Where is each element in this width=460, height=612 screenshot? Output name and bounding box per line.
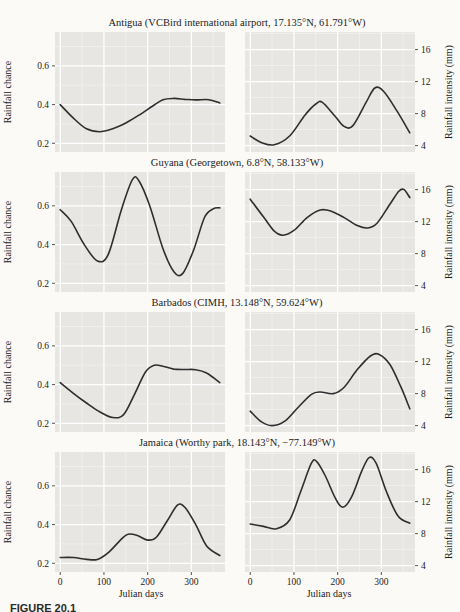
x-axis-labels: Julian days Julian days (0, 588, 460, 600)
panel-row-guyana: Guyana (Georgetown, 6.8°N, 58.133°W) 0.2… (0, 156, 460, 294)
panel-row-barbados: Barbados (CIMH, 13.148°N, 59.624°W) 0.20… (0, 296, 460, 434)
y-tick-label: 0.6 (37, 341, 49, 351)
y-tick-label: 8 (421, 389, 426, 399)
y-tick-label: 0.6 (37, 61, 49, 71)
y-axis-title: Rainfall intensity (mm) (443, 45, 455, 139)
y-axis-title: Rainfall chance (2, 60, 13, 123)
y-tick-label: 8 (421, 529, 426, 539)
y-tick-label: 0.2 (37, 559, 49, 569)
y-tick-label: 4 (421, 561, 426, 571)
guyana-rainfall-intensity-chart: 481216Rainfall intensity (mm) (243, 170, 460, 294)
jamaica-rainfall-chance-chart: 0.20.40.60100200300Rainfall chance (0, 450, 227, 588)
subplot-title-jamaica: Jamaica (Worthy park, 18.143°N, −77.149°… (0, 436, 460, 450)
y-tick-label: 12 (421, 217, 431, 227)
y-tick-label: 4 (421, 421, 426, 431)
chart-pair-antigua: 0.20.40.6Rainfall chance 481216Rainfall … (0, 30, 460, 154)
x-tick-label: 300 (184, 577, 199, 587)
barbados-rainfall-intensity-chart: 481216Rainfall intensity (mm) (243, 310, 460, 434)
y-axis-title: Rainfall chance (2, 480, 13, 543)
y-axis-title: Rainfall intensity (mm) (443, 465, 455, 559)
barbados-rainfall-chance-chart: 0.20.40.6Rainfall chance (0, 310, 227, 434)
y-tick-label: 16 (421, 465, 431, 475)
y-axis-title: Rainfall intensity (mm) (443, 325, 455, 419)
y-tick-label: 0.2 (37, 419, 49, 429)
y-tick-label: 0.4 (37, 100, 49, 110)
y-tick-label: 16 (421, 325, 431, 335)
y-tick-label: 4 (421, 281, 426, 291)
x-axis-label-right: Julian days (243, 588, 460, 600)
subplot-title-guyana: Guyana (Georgetown, 6.8°N, 58.133°W) (0, 156, 460, 170)
y-tick-label: 4 (421, 141, 426, 151)
chart-pair-guyana: 0.20.40.6Rainfall chance 481216Rainfall … (0, 170, 460, 294)
y-tick-label: 0.2 (37, 139, 49, 149)
y-axis-title: Rainfall intensity (mm) (443, 185, 455, 279)
panel-row-jamaica: Jamaica (Worthy park, 18.143°N, −77.149°… (0, 436, 460, 588)
y-tick-label: 0.6 (37, 481, 49, 491)
y-tick-label: 8 (421, 249, 426, 259)
plot-area (55, 452, 225, 572)
jamaica-rainfall-intensity-chart: 4812160100200300Rainfall intensity (mm) (243, 450, 460, 588)
y-tick-label: 12 (421, 497, 431, 507)
plot-area (55, 312, 225, 432)
y-tick-label: 0.4 (37, 520, 49, 530)
x-tick-label: 100 (287, 577, 302, 587)
y-tick-label: 0.4 (37, 240, 49, 250)
x-tick-label: 300 (374, 577, 389, 587)
x-tick-label: 200 (331, 577, 346, 587)
plot-area (55, 32, 225, 152)
y-tick-label: 0.4 (37, 380, 49, 390)
y-tick-label: 0.2 (37, 279, 49, 289)
x-tick-label: 100 (97, 577, 112, 587)
y-tick-label: 12 (421, 77, 431, 87)
x-tick-label: 200 (141, 577, 156, 587)
antigua-rainfall-intensity-chart: 481216Rainfall intensity (mm) (243, 30, 460, 154)
y-axis-title: Rainfall chance (2, 340, 13, 403)
y-tick-label: 8 (421, 109, 426, 119)
antigua-rainfall-chance-chart: 0.20.40.6Rainfall chance (0, 30, 227, 154)
rainfall-figure: Antigua (VCBird international airport, 1… (0, 0, 460, 600)
guyana-rainfall-chance-chart: 0.20.40.6Rainfall chance (0, 170, 227, 294)
panel-row-antigua: Antigua (VCBird international airport, 1… (0, 16, 460, 154)
y-tick-label: 12 (421, 357, 431, 367)
x-tick-label: 0 (58, 577, 63, 587)
subplot-title-antigua: Antigua (VCBird international airport, 1… (0, 16, 460, 30)
chart-pair-barbados: 0.20.40.6Rainfall chance 481216Rainfall … (0, 310, 460, 434)
chart-pair-jamaica: 0.20.40.60100200300Rainfall chance 48121… (0, 450, 460, 588)
x-tick-label: 0 (248, 577, 253, 587)
y-axis-title: Rainfall chance (2, 200, 13, 263)
y-tick-label: 16 (421, 185, 431, 195)
figure-caption: FIGURE 20.1 (10, 602, 76, 612)
y-tick-label: 0.6 (37, 201, 49, 211)
x-axis-label-left: Julian days (0, 588, 227, 600)
y-tick-label: 16 (421, 45, 431, 55)
subplot-title-barbados: Barbados (CIMH, 13.148°N, 59.624°W) (0, 296, 460, 310)
